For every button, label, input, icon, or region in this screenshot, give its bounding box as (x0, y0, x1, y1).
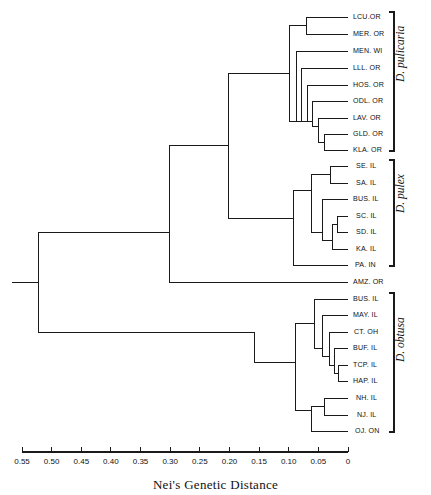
leaf-label-ka-il: KA. IL (356, 245, 376, 253)
tick-label-2: 0.45 (74, 457, 90, 466)
tick-label-0: 0.55 (14, 457, 30, 466)
leaf-label-mer-or: MER. OR (353, 30, 384, 38)
leaf-label-buf-il: BUF. IL (353, 344, 377, 352)
leaf-label-hos-or: HOS. OR (353, 81, 384, 89)
leaf-label-bus-il-obtusa: BUS. IL (353, 295, 379, 303)
tick-label-7: 0.20 (222, 457, 238, 466)
bracket-obtusa (389, 293, 394, 432)
leaf-label-nh-il: NH. IL (356, 394, 377, 402)
tick-label-10: 0.05 (311, 457, 327, 466)
leaf-label-amz-or: AMZ. OR (353, 278, 384, 286)
leaf-label-ct-oh: CT. OH (354, 328, 378, 336)
leaf-label-lav-or: LAV. OR (353, 114, 381, 122)
tick-label-1: 0.50 (44, 457, 60, 466)
tree-branches (12, 12, 394, 452)
tick-label-11: 0 (346, 457, 350, 466)
axis-title: Nei's Genetic Distance (0, 477, 431, 493)
leaf-label-men-wi: MEN. WI (353, 47, 382, 55)
tick-label-8: 0.15 (251, 457, 267, 466)
leaf-label-hap-il: HAP. IL (353, 377, 378, 385)
leaf-label-sd-il: SD. IL (356, 228, 377, 236)
figure-root: LCU.OR MER. OR MEN. WI LLL. OR HOS. OR O… (0, 0, 431, 495)
species-label-pulicaria: D. pulicaria (394, 26, 406, 82)
leaf-label-bus-il-pulex: BUS. IL (353, 195, 379, 203)
species-label-obtusa: D. obtusa (394, 317, 406, 362)
leaf-label-oj-on: OJ. ON (355, 427, 380, 435)
leaf-label-pa-in: PA. IN (355, 261, 376, 269)
tick-label-5: 0.30 (162, 457, 178, 466)
leaf-label-kla-or: KLA. OR (353, 146, 382, 154)
leaf-label-may-il: MAY. IL (353, 311, 378, 319)
leaf-label-nj-il: NJ. IL (357, 411, 376, 419)
leaf-label-odl-or: ODL. OR (353, 97, 383, 105)
leaf-label-sa-il: SA. IL (356, 179, 376, 187)
leaf-label-tcp-il: TCP. IL (353, 361, 377, 369)
tick-label-4: 0.35 (133, 457, 149, 466)
leaf-label-lcu-or: LCU.OR (353, 13, 381, 21)
leaf-label-se-il: SE. IL (356, 162, 376, 170)
species-label-pulex: D. pulex (394, 174, 406, 213)
leaf-label-sc-il: SC. IL (356, 212, 377, 220)
tick-label-3: 0.40 (103, 457, 119, 466)
leaf-label-lll-or: LLL. OR (353, 64, 380, 72)
tick-label-9: 0.10 (281, 457, 297, 466)
leaf-label-gld-or: GLD. OR (353, 130, 383, 138)
tick-label-6: 0.25 (192, 457, 208, 466)
